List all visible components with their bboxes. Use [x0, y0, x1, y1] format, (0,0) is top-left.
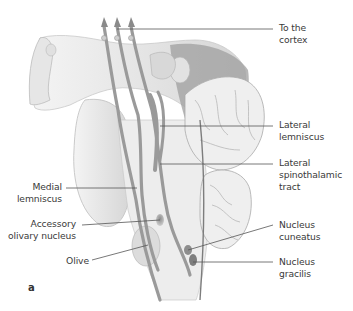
- label-nucleus-gracilis: Nucleus gracilis: [279, 256, 315, 280]
- arrow-heads: [101, 17, 135, 27]
- label-nucleus-cuneatus: Nucleus cuneatus: [279, 219, 320, 243]
- label-lateral-lemniscus: Lateral lemniscus: [279, 119, 324, 143]
- panel-letter: a: [28, 282, 35, 293]
- label-to-cortex: To the cortex: [279, 22, 307, 46]
- small-nucleus: [46, 44, 56, 56]
- cerebellum-upper: [185, 77, 264, 170]
- cerebellum-lower: [200, 170, 251, 249]
- brainstem-diagram: To the cortex Lateral lemniscus Lateral …: [0, 0, 353, 311]
- pons: [74, 99, 130, 226]
- label-lateral-spinothalamic-tract: Lateral spinothalamic tract: [279, 157, 342, 193]
- label-medial-lemniscus: Medial lemniscus: [17, 181, 62, 205]
- colliculus: [150, 52, 175, 79]
- nucleus-gracilis-shape: [189, 254, 197, 266]
- label-olive: Olive: [66, 255, 89, 267]
- label-accessory-olivary-nucleus: Accessory olivary nucleus: [8, 218, 76, 242]
